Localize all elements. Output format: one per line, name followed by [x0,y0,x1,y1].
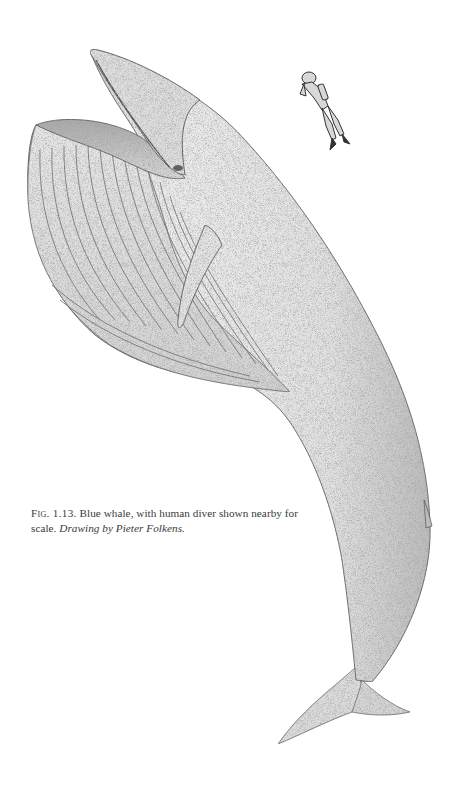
illustration-credit: Drawing by Pieter Folkens. [59,522,185,534]
diver-fin-right [342,134,350,144]
figure: Fig. 1.13. Blue whale, with human diver … [0,0,453,792]
human-diver-illustration [292,64,362,154]
whale-eye [173,165,183,171]
figure-caption: Fig. 1.13. Blue whale, with human diver … [31,506,321,536]
figure-label: Fig. 1.13. [31,507,77,519]
blue-whale-illustration [0,0,453,792]
tail-flukes [278,668,410,744]
diver-fin-left [330,138,336,150]
